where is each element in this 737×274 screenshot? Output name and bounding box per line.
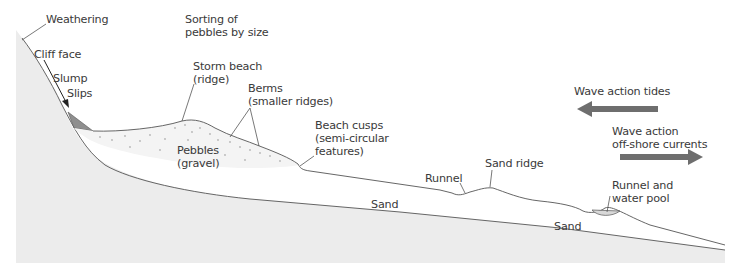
label-wave-tides: Wave action tides <box>574 85 670 98</box>
label-sand-ridge: Sand ridge <box>485 157 544 170</box>
label-runnel: Runnel <box>425 172 462 185</box>
label-slips: Slips <box>67 87 92 100</box>
arrow-left-icon <box>577 101 658 117</box>
label-beach-cusps: Beach cusps (semi-circular features) <box>315 119 389 158</box>
arrow-right-icon <box>620 149 703 165</box>
label-sand-lower: Sand <box>554 220 581 233</box>
label-berms: Berms (smaller ridges) <box>248 82 333 108</box>
label-sand-upper: Sand <box>371 198 398 211</box>
water-pool <box>592 210 620 215</box>
label-runnel-pool: Runnel and water pool <box>612 179 673 205</box>
label-weathering: Weathering <box>46 13 108 26</box>
label-slump: Slump <box>53 72 87 85</box>
label-sorting: Sorting of pebbles by size <box>185 13 269 39</box>
label-pebbles: Pebbles (gravel) <box>177 144 219 170</box>
label-wave-offshore: Wave action off-shore currents <box>612 125 707 151</box>
label-cliff-face: Cliff face <box>34 48 81 61</box>
